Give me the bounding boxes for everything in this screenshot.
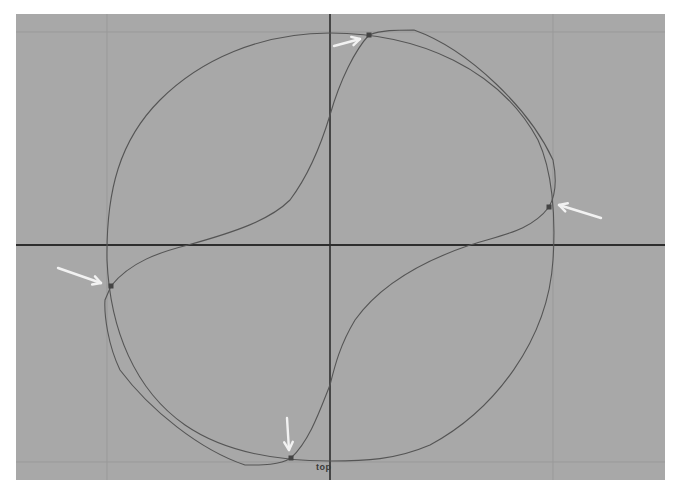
arrow-left-icon <box>58 268 101 284</box>
control-point-right[interactable] <box>547 205 552 210</box>
arrow-bottom-icon <box>284 418 293 450</box>
viewport-scene[interactable] <box>0 0 678 493</box>
arrow-top-icon <box>334 37 360 46</box>
control-point-top[interactable] <box>367 33 372 38</box>
control-point-left[interactable] <box>109 284 114 289</box>
arrow-right-icon <box>559 203 601 218</box>
view-name-label: top <box>316 462 332 472</box>
control-point-bottom[interactable] <box>289 456 294 461</box>
